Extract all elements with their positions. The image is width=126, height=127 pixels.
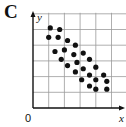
grid-lines (33, 13, 126, 108)
data-point (101, 72, 106, 77)
data-point (73, 43, 78, 48)
data-point (93, 77, 98, 82)
data-point (79, 77, 84, 82)
data-point (104, 79, 109, 84)
x-axis-label: x (118, 112, 124, 124)
data-point (87, 83, 92, 88)
data-point (104, 87, 109, 92)
data-point (87, 57, 92, 62)
data-point (87, 72, 92, 77)
x-axis-arrow-icon (119, 106, 125, 111)
data-point (81, 50, 86, 55)
y-axis-label: y (36, 11, 42, 23)
data-point (59, 57, 64, 62)
data-point (65, 63, 70, 68)
origin-label: 0 (25, 112, 31, 124)
data-point (93, 87, 98, 92)
data-point (81, 66, 86, 71)
data-point (74, 60, 79, 65)
data-point (52, 49, 57, 54)
data-point (93, 65, 98, 70)
data-point (62, 47, 67, 52)
data-point (46, 35, 51, 40)
data-point (71, 52, 76, 57)
data-point (48, 25, 53, 30)
data-point (56, 35, 61, 40)
scatter-plot: y x 0 (0, 0, 126, 127)
data-point (65, 38, 70, 43)
data-point (73, 69, 78, 74)
data-point (57, 27, 62, 32)
data-points (46, 25, 109, 91)
